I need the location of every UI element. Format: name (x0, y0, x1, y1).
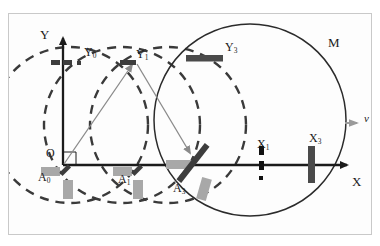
label-y0: Y0 (84, 46, 96, 58)
x1-dash-2 (259, 161, 264, 170)
label-x3: X3 (309, 132, 321, 144)
diagram-canvas (0, 0, 380, 246)
light-rays (64, 64, 190, 164)
dashed-marker-x1 (259, 146, 264, 180)
label-v: v (364, 113, 369, 124)
x1-dash-3 (259, 176, 263, 180)
gray-detector-block-a3 (196, 177, 212, 201)
y0-dash-2 (63, 60, 72, 65)
y0-dash-3 (77, 61, 81, 65)
label-a1: A1 (118, 173, 130, 185)
mirror-bar-y3 (186, 55, 223, 62)
label-x1: X1 (257, 138, 269, 150)
label-a0: A0 (38, 171, 50, 183)
gray-detector-block-a0 (63, 180, 73, 199)
ray-origin-to-y1 (64, 65, 132, 164)
label-m: M (328, 36, 340, 49)
label-origin: O (46, 147, 55, 159)
mirror-bar-x3 (308, 146, 315, 183)
gray-detector-block-a1 (133, 180, 143, 199)
dashed-marker-y0 (51, 60, 81, 65)
label-a3: A3 (173, 182, 185, 194)
figure-root: Y Y0 Y1 Y3 M v X1 X3 X O A0 A1 A3 (0, 0, 380, 246)
label-y-axis: Y (40, 28, 49, 41)
mirror-bar-y1 (120, 60, 136, 65)
label-y1: Y1 (136, 48, 148, 60)
label-y3: Y3 (225, 41, 237, 53)
y0-dash-1 (51, 60, 60, 65)
label-x-axis: X (352, 175, 361, 188)
